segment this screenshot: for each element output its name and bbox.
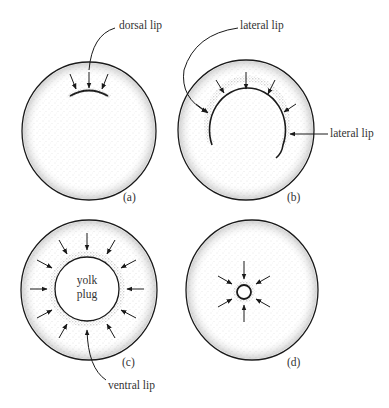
label-plug: plug <box>72 289 102 301</box>
label-panel-b: (b) <box>287 192 300 204</box>
blastopore <box>237 285 251 299</box>
panel-a <box>22 28 156 200</box>
label-ventral-lip: ventral lip <box>108 380 155 392</box>
label-panel-d: (d) <box>287 357 300 369</box>
label-yolk: yolk <box>72 275 102 287</box>
label-dorsal-lip: dorsal lip <box>119 20 162 32</box>
panel-b <box>178 28 328 200</box>
panel-d <box>186 220 318 360</box>
label-panel-a: (a) <box>123 192 136 204</box>
label-lateral-lip-top: lateral lip <box>240 20 284 32</box>
label-lateral-lip-right: lateral lip <box>330 128 374 140</box>
label-panel-c: (c) <box>122 357 135 369</box>
gastrulation-diagram <box>0 0 389 408</box>
